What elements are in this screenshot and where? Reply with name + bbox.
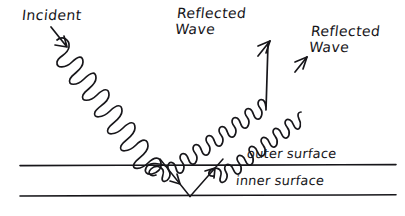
label-outer-surface: outer surface [246, 147, 337, 162]
reflection-diagram: Incident Reflected Wave Reflected Wave o… [0, 0, 405, 216]
label-reflected-wave-2-line1: Reflected [310, 24, 381, 40]
incident-wave [57, 38, 166, 174]
label-reflected-wave-2-line2: Wave [308, 40, 379, 56]
label-reflected-wave-1-line2: Wave [174, 22, 245, 38]
label-inner-surface: inner surface [235, 174, 325, 189]
label-reflected-wave-2: Reflected Wave [308, 24, 381, 55]
incident-arrow-icon [51, 27, 67, 47]
label-reflected-wave-1-line1: Reflected [176, 6, 247, 22]
label-reflected-wave-1: Reflected Wave [174, 6, 247, 37]
outer-surface-line [20, 165, 396, 166]
label-incident: Incident [21, 8, 82, 24]
inner-surface-line [20, 195, 396, 196]
